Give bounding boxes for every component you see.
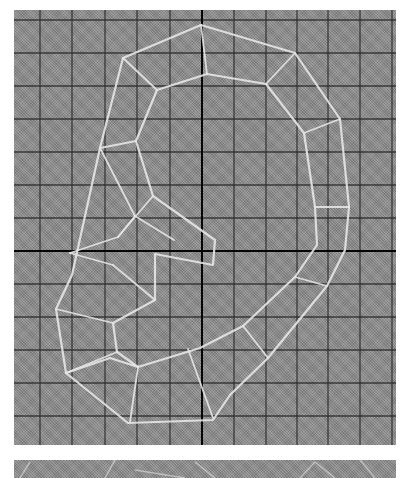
mesh-inner-fold [113, 74, 215, 367]
secondary-mesh-edge [135, 470, 185, 478]
secondary-mesh-edge [20, 462, 30, 478]
mesh-spoke-edge [123, 58, 157, 90]
secondary-mesh-edge [315, 462, 335, 478]
secondary-mesh-wireframe [20, 460, 375, 478]
mesh-spoke-edge [243, 326, 268, 358]
secondary-mesh-canvas [14, 460, 396, 478]
mesh-spoke-edge [135, 216, 174, 240]
secondary-mesh-edge [105, 460, 115, 478]
grid-panel-main [14, 10, 396, 445]
mesh-spoke-edge [113, 265, 155, 300]
secondary-mesh-edge [195, 462, 215, 478]
mesh-spoke-edge [66, 352, 117, 373]
mesh-grid-canvas [14, 10, 396, 445]
secondary-mesh-edge [360, 460, 375, 478]
grid-panel-secondary [14, 460, 396, 478]
mesh-spoke-edge [304, 119, 340, 133]
secondary-mesh-edge [300, 462, 315, 478]
mesh-spoke-edge [118, 196, 153, 237]
mesh-spoke-edge [266, 53, 295, 84]
